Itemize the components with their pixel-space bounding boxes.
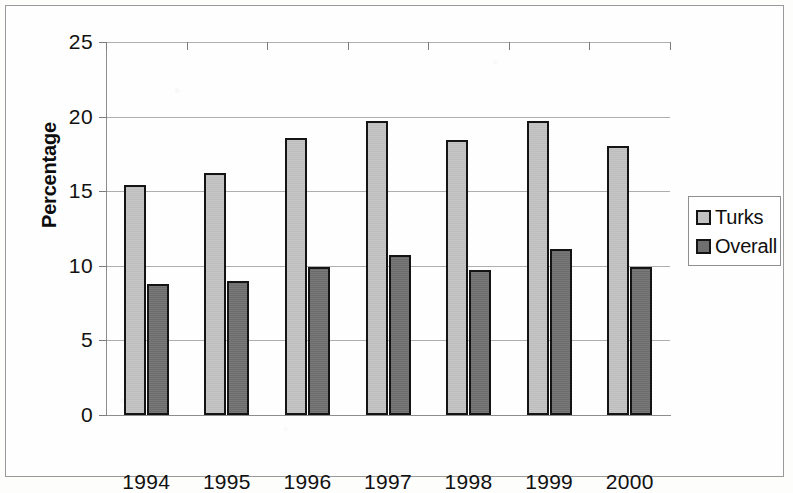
bar-overall-1999[interactable]: [550, 249, 572, 415]
x-tick-label-1994: 1994: [122, 470, 170, 493]
x-tick-mark: [509, 42, 510, 50]
x-axis-line: [106, 415, 671, 416]
x-tick-mark: [106, 42, 107, 50]
x-tick-mark: [589, 42, 590, 50]
bar-turks-1995[interactable]: [204, 173, 226, 415]
y-gridline: [106, 191, 670, 192]
bar-turks-1994[interactable]: [124, 185, 146, 415]
y-tick-label: 10: [69, 254, 93, 278]
y-tick-label: 5: [81, 328, 93, 352]
x-tick-label-1996: 1996: [283, 470, 331, 493]
legend-label-overall: Overall: [715, 235, 777, 258]
legend-item-turks[interactable]: Turks: [696, 203, 780, 232]
legend-swatch-overall-icon: [696, 239, 711, 254]
plot-area: 05101520251994199519961997199819992000: [106, 42, 670, 415]
x-tick-label-2000: 2000: [606, 470, 654, 493]
y-tick-mark: [99, 266, 107, 267]
x-tick-mark: [267, 42, 268, 50]
y-tick-label: 0: [81, 403, 93, 427]
bar-turks-2000[interactable]: [607, 146, 629, 415]
x-tick-label-1997: 1997: [364, 470, 412, 493]
x-tick-mark: [348, 42, 349, 50]
bar-turks-1999[interactable]: [527, 121, 549, 415]
y-tick-mark: [99, 117, 107, 118]
legend-label-turks: Turks: [715, 206, 763, 229]
x-tick-mark: [428, 42, 429, 50]
bar-overall-2000[interactable]: [630, 267, 652, 415]
y-gridline: [106, 42, 670, 43]
bar-turks-1997[interactable]: [366, 121, 388, 415]
y-tick-label: 20: [69, 105, 93, 129]
y-tick-mark: [99, 191, 107, 192]
y-axis-title: Percentage: [38, 122, 61, 228]
x-tick-label-1999: 1999: [525, 470, 573, 493]
y-tick-mark: [99, 415, 107, 416]
bar-overall-1997[interactable]: [389, 255, 411, 415]
y-tick-mark: [99, 340, 107, 341]
legend-swatch-turks-icon: [696, 210, 711, 225]
y-gridline: [106, 117, 670, 118]
bar-turks-1998[interactable]: [446, 140, 468, 415]
x-tick-label-1998: 1998: [445, 470, 493, 493]
bar-overall-1994[interactable]: [147, 284, 169, 415]
y-tick-label: 15: [69, 179, 93, 203]
legend-item-overall[interactable]: Overall: [696, 232, 780, 261]
y-tick-label: 25: [69, 30, 93, 54]
x-tick-label-1995: 1995: [203, 470, 251, 493]
x-tick-mark: [187, 42, 188, 50]
bar-overall-1998[interactable]: [469, 270, 491, 415]
bar-turks-1996[interactable]: [285, 138, 307, 416]
x-tick-mark: [670, 42, 671, 50]
bar-overall-1996[interactable]: [308, 267, 330, 415]
bar-overall-1995[interactable]: [227, 281, 249, 415]
chart-legend: Turks Overall: [688, 196, 781, 266]
